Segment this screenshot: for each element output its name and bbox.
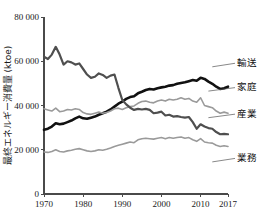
y-tick-label: 20 000 bbox=[14, 145, 39, 155]
series-label-業務: 業務 bbox=[237, 152, 257, 163]
series-leader-line-輸送 bbox=[212, 63, 235, 67]
x-tick-label: 1990 bbox=[113, 199, 132, 209]
x-tick-label: 2017 bbox=[219, 199, 238, 209]
chart-figure: 020 00040 00060 00080 000197019801990200… bbox=[0, 0, 268, 219]
x-tick-label: 2010 bbox=[192, 199, 211, 209]
data-series-group bbox=[44, 47, 228, 153]
y-tick-label: 60 000 bbox=[14, 56, 39, 66]
y-tick-label: 40 000 bbox=[14, 101, 39, 111]
y-tick-label: 80 000 bbox=[14, 12, 39, 22]
series-leader-line-産業 bbox=[208, 114, 235, 118]
y-axis-title-text: 最終エネルギー消費量 (ktoe) bbox=[2, 46, 13, 166]
x-tick-label: 2000 bbox=[152, 199, 171, 209]
series-line-業務 bbox=[44, 137, 228, 152]
series-leader-line-業務 bbox=[212, 158, 235, 161]
energy-consumption-line-chart: 020 00040 00060 00080 000197019801990200… bbox=[0, 0, 268, 219]
y-axis-title: 最終エネルギー消費量 (ktoe) bbox=[2, 46, 13, 166]
series-label-輸送: 輸送 bbox=[237, 57, 257, 68]
x-tick-label: 1980 bbox=[74, 199, 93, 209]
series-label-産業: 産業 bbox=[237, 108, 257, 119]
x-tick-label: 1970 bbox=[35, 199, 54, 209]
series-label-家庭: 家庭 bbox=[237, 81, 257, 92]
series-line-家庭 bbox=[44, 98, 228, 115]
